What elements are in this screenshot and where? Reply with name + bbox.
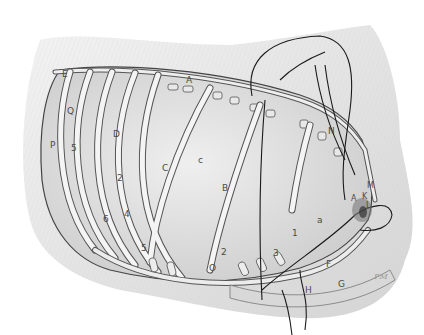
label-4: 4	[124, 210, 130, 219]
label-2-left: 2	[117, 174, 123, 183]
label-M: M	[367, 182, 374, 190]
label-2-right: 2	[221, 248, 227, 257]
label-c: c	[198, 156, 203, 165]
label-E: E	[62, 70, 68, 79]
label-L: L	[366, 202, 370, 210]
label-1: 1	[292, 229, 298, 238]
label-G: G	[338, 280, 345, 289]
anatomical-illustration	[0, 0, 424, 335]
label-3: 3	[273, 249, 279, 258]
label-N: N	[328, 127, 335, 136]
label-O: O	[209, 264, 216, 273]
label-K: K	[362, 193, 367, 201]
label-5-lower: 5	[141, 244, 147, 253]
label-F: F	[326, 260, 331, 269]
thorax-drawing	[0, 0, 424, 335]
label-Q: Q	[67, 107, 74, 116]
label-A-right: A	[351, 195, 356, 203]
artist-signature: PM	[374, 272, 388, 281]
label-C: C	[162, 164, 168, 173]
label-A-top: A	[186, 76, 192, 85]
label-a: a	[317, 216, 323, 225]
label-6: 6	[103, 215, 109, 224]
label-H: H	[305, 286, 312, 295]
label-5-upper: 5	[71, 144, 77, 153]
label-P: P	[50, 141, 55, 150]
label-D: D	[113, 130, 120, 139]
label-B: B	[222, 184, 228, 193]
